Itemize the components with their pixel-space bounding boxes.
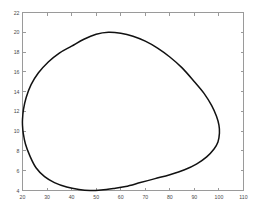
- x-tick-label: 30: [44, 194, 50, 200]
- chart-plot: 2030405060708090100110 46810121416182022: [0, 0, 261, 211]
- y-tick-label: 16: [14, 69, 20, 75]
- y-tick-label: 8: [17, 148, 20, 154]
- x-tick-label: 60: [118, 194, 124, 200]
- x-tick-label: 90: [191, 194, 197, 200]
- y-tick-label: 14: [14, 89, 20, 95]
- y-tick-label: 20: [14, 29, 20, 35]
- y-tick-label: 12: [14, 108, 20, 114]
- x-tick-label: 50: [93, 194, 99, 200]
- figure-background: [0, 0, 261, 211]
- y-tick-label: 6: [17, 168, 20, 174]
- y-tick-label: 4: [17, 188, 20, 194]
- x-tick-label: 80: [167, 194, 173, 200]
- x-tick-label: 110: [239, 194, 247, 200]
- x-tick-label: 100: [215, 194, 224, 200]
- x-tick-label: 70: [142, 194, 148, 200]
- figure-container: 2030405060708090100110 46810121416182022: [0, 0, 261, 211]
- y-tick-label: 22: [14, 10, 20, 16]
- x-tick-label: 40: [69, 194, 75, 200]
- y-tick-label: 18: [14, 49, 20, 55]
- y-tick-label: 10: [14, 128, 20, 134]
- x-tick-label: 20: [20, 194, 26, 200]
